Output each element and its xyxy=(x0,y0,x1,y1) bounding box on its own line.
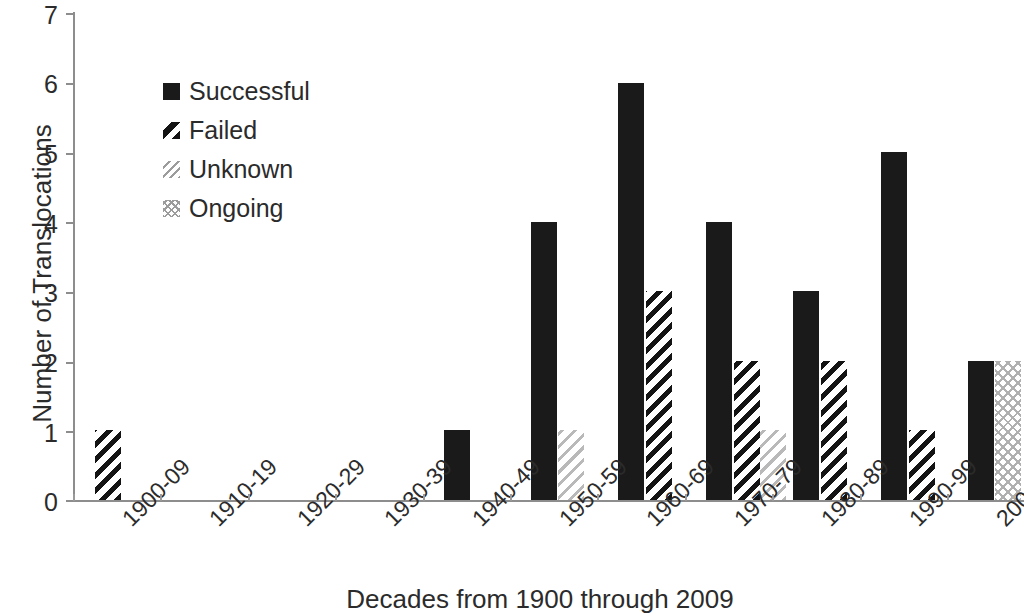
legend-label-successful: Successful xyxy=(189,79,310,104)
x-tick-label-1920-29: 1920-29 xyxy=(292,513,311,532)
bar-failed-1900-09[interactable] xyxy=(94,430,121,500)
x-tick-mark-1980-89 xyxy=(772,494,774,501)
x-tick-label-2000-09: 2000-09 xyxy=(991,513,1010,532)
legend-label-unknown: Unknown xyxy=(189,157,293,182)
x-tick-mark-1960-69 xyxy=(597,494,599,501)
bar-successful-1970-79[interactable] xyxy=(706,222,732,500)
x-tick-label-1900-09: 1900-09 xyxy=(117,513,136,532)
cross-hatch-key-icon xyxy=(163,200,180,217)
x-tick-label-1940-49: 1940-49 xyxy=(467,513,486,532)
plot-area xyxy=(0,0,1024,501)
bar-ongoing-2000-09[interactable] xyxy=(995,361,1021,500)
chart-canvas: Number of Translocations 7 6 5 4 3 2 1 0… xyxy=(0,0,1024,615)
legend-label-ongoing: Ongoing xyxy=(189,196,284,221)
x-tick-label-1970-79: 1970-79 xyxy=(729,513,748,532)
solid-square-key-icon xyxy=(163,83,180,100)
bar-successful-1950-59[interactable] xyxy=(531,222,557,500)
x-tick-label-1990-99: 1990-99 xyxy=(904,513,923,532)
x-tick-mark-1920-29 xyxy=(248,494,250,501)
x-axis-title: Decades from 1900 through 2009 xyxy=(0,584,1024,615)
diagonal-stripe-key-icon xyxy=(163,122,180,139)
x-tick-label-1930-39: 1930-39 xyxy=(379,513,398,532)
x-tick-mark-1930-39 xyxy=(335,494,337,501)
legend-item-failed[interactable]: Failed xyxy=(163,111,310,150)
x-tick-label-1950-59: 1950-59 xyxy=(554,513,573,532)
light-hatch-key-icon xyxy=(163,161,180,178)
bar-failed-1960-69[interactable] xyxy=(645,291,672,500)
legend-item-ongoing[interactable]: Ongoing xyxy=(163,189,310,228)
x-tick-mark-1990-99 xyxy=(860,494,862,501)
x-tick-mark-2000-09 xyxy=(947,494,949,501)
x-tick-mark-1900-09 xyxy=(73,494,75,501)
x-tick-label-1910-19: 1910-19 xyxy=(204,513,223,532)
x-tick-mark-1950-59 xyxy=(510,494,512,501)
bar-successful-1960-69[interactable] xyxy=(618,83,644,500)
legend-item-unknown[interactable]: Unknown xyxy=(163,150,310,189)
chart-legend: Successful Failed Unknown Ongoing xyxy=(163,72,310,228)
x-tick-label-1960-69: 1960-69 xyxy=(641,513,660,532)
x-tick-mark-1940-49 xyxy=(423,494,425,501)
legend-item-successful[interactable]: Successful xyxy=(163,72,310,111)
legend-label-failed: Failed xyxy=(189,118,257,143)
x-tick-mark-1970-79 xyxy=(685,494,687,501)
x-tick-mark-1910-19 xyxy=(160,494,162,501)
bar-failed-1970-79[interactable] xyxy=(733,361,760,500)
bar-failed-1980-89[interactable] xyxy=(820,361,847,500)
x-tick-label-1980-89: 1980-89 xyxy=(816,513,835,532)
bar-successful-1990-99[interactable] xyxy=(881,152,907,500)
